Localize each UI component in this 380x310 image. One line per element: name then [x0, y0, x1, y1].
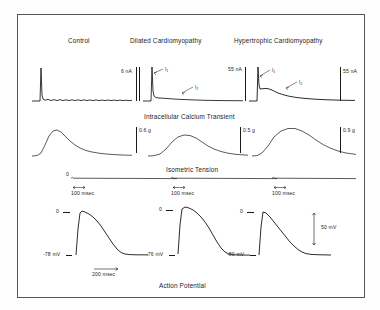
- current-scale-label-control: 6 nA: [121, 68, 132, 74]
- ap-resting-label-dilated: -76 mV: [146, 251, 163, 257]
- ap-zero-label-hypertrophic: 0: [240, 208, 243, 214]
- ap-voltage-scale-bar: [310, 212, 318, 246]
- ap-zero-tick-hypertrophic: [247, 212, 254, 213]
- calcium-scale-bar-dilated: [240, 127, 241, 153]
- tension-zero-label-control: 0: [66, 171, 69, 177]
- ap-zero-label-control: 0: [56, 208, 59, 214]
- ap-trace-hypertrophic: [259, 205, 331, 257]
- ap-resting-label-hypertrophic: -80 mV: [227, 251, 244, 257]
- ap-resting-label-control: -78 mV: [43, 251, 60, 257]
- tension-time-label-control: 100 msec: [71, 190, 94, 196]
- current-annotation-i1-dilated: I₁: [165, 66, 168, 72]
- calcium-scale-bar-hypertrophic: [340, 127, 341, 153]
- current-scale-bar-dilated-left: [139, 67, 140, 101]
- current-annotation-i1-hypertrophic: I₁: [272, 67, 275, 73]
- section-title-action-potential: Action Potential: [159, 282, 206, 289]
- section-title-calcium: Intracellular Calcium Transient: [144, 113, 235, 120]
- ap-voltage-scale-label: 50 mV: [321, 224, 336, 230]
- tension-trace-dilated: [171, 175, 277, 183]
- ap-zero-tick-control: [63, 212, 70, 213]
- figure-root: Control Dilated Cardiomyopathy Hypertrop…: [0, 0, 380, 310]
- current-scale-bar-hypertrophic-left: [245, 67, 246, 101]
- column-title-hypertrophic: Hypertrophic Cardiomyopathy: [234, 37, 323, 44]
- current-annotation-i2-hypertrophic: I₂: [299, 79, 303, 85]
- calcium-scale-label-hypertrophic: 0.9 g: [343, 127, 355, 133]
- column-title-control: Control: [68, 37, 90, 44]
- current-scale-label-dilated-50na: 55 nA: [228, 66, 242, 72]
- ap-zero-label-dilated: 0: [159, 206, 162, 212]
- ap-resting-tick-hypertrophic: [250, 255, 256, 256]
- current-scale-label-hypertrophic: 55 nA: [343, 68, 357, 74]
- tension-trace-control: [71, 175, 177, 183]
- ap-time-label: 200 msec: [92, 271, 115, 277]
- calcium-trace-control: [32, 125, 132, 157]
- current-annotation-i2-dilated: I₂: [195, 84, 199, 90]
- column-title-dilated: Dilated Cardiomyopathy: [130, 37, 202, 44]
- section-title-tension: Isometric Tension: [166, 166, 218, 173]
- calcium-scale-bar-control: [136, 127, 137, 153]
- ap-trace-control: [76, 205, 148, 257]
- tension-trace-hypertrophic: [272, 175, 356, 183]
- ap-resting-tick-control: [66, 255, 72, 256]
- ap-resting-tick-dilated: [169, 255, 175, 256]
- current-scale-bar-control: [136, 67, 137, 101]
- tension-time-label-hypertrophic: 100 msec: [272, 190, 295, 196]
- figure-border: Control Dilated Cardiomyopathy Hypertrop…: [17, 14, 365, 298]
- calcium-trace-dilated: [148, 125, 248, 157]
- ap-zero-tick-dilated: [166, 210, 173, 211]
- current-scale-bar-hypertrophic-right: [340, 67, 341, 101]
- current-trace-control: [32, 65, 132, 105]
- tension-time-label-dilated: 100 msec: [171, 190, 194, 196]
